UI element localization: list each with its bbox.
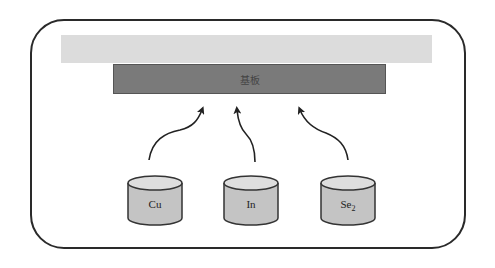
source-label-cu: Cu bbox=[127, 198, 183, 210]
arrow-cu bbox=[149, 110, 202, 160]
arrow-in bbox=[237, 110, 255, 162]
source-label-se2: Se2 bbox=[320, 198, 376, 213]
arrow-se bbox=[300, 110, 348, 160]
source-label-in: In bbox=[223, 198, 279, 210]
